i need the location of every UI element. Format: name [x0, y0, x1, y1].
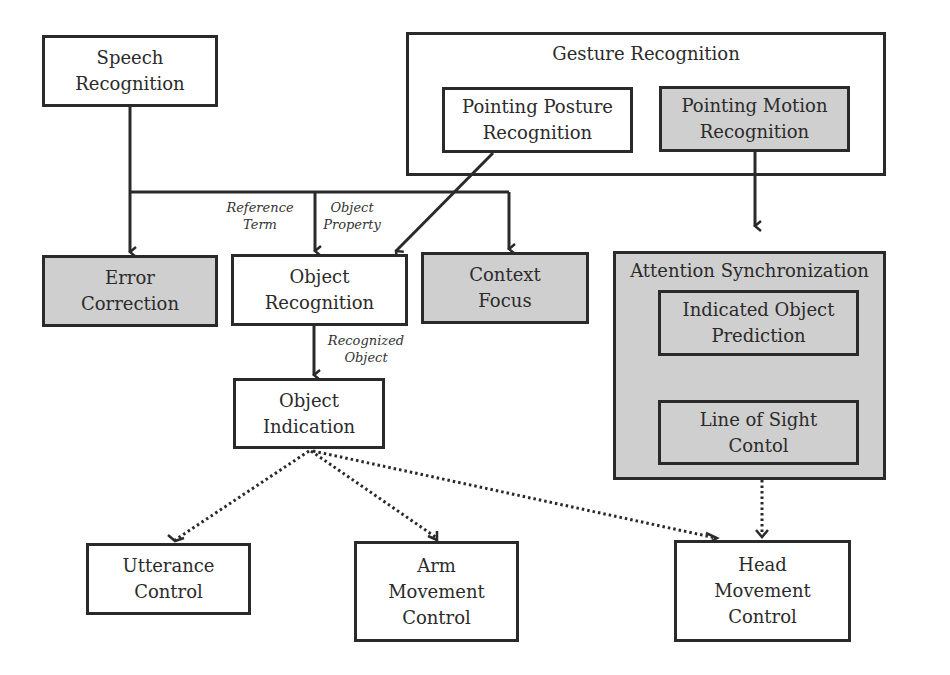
node-pointing-motion-recognition: Pointing Motion Recognition: [659, 86, 850, 152]
node-head-movement-control: Head Movement Control: [674, 540, 851, 642]
node-object-indication: Object Indication: [233, 378, 385, 449]
diagram-canvas: Speech Recognition Gesture Recognition P…: [0, 0, 950, 675]
node-object-recognition: Object Recognition: [231, 254, 408, 326]
edge-label-recognized-object: Recognized Object: [326, 332, 406, 366]
node-context-focus: Context Focus: [421, 252, 589, 324]
node-indicated-object-prediction: Indicated Object Prediction: [658, 290, 859, 356]
group-attention-synchronization-title: Attention Synchronization: [616, 260, 883, 281]
node-arm-movement-control: Arm Movement Control: [354, 541, 519, 642]
node-speech-recognition: Speech Recognition: [42, 35, 218, 107]
edge-label-reference-term: Reference Term: [220, 199, 300, 233]
edge-label-object-property: Object Property: [318, 199, 386, 233]
node-utterance-control: Utterance Control: [86, 543, 251, 615]
node-pointing-posture-recognition: Pointing Posture Recognition: [442, 87, 633, 153]
group-gesture-recognition-title: Gesture Recognition: [409, 43, 883, 64]
node-error-correction: Error Correction: [42, 255, 218, 327]
node-line-of-sight-control: Line of Sight Contol: [658, 400, 859, 465]
